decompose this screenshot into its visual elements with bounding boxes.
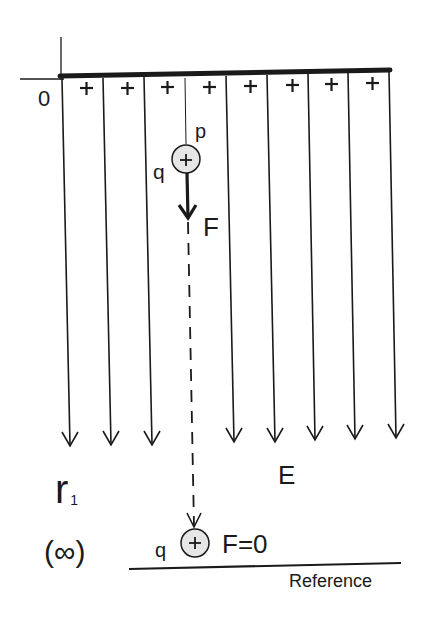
field-e-label: E (278, 462, 295, 488)
test-charge-bottom (181, 529, 209, 557)
charged-plate (60, 70, 390, 76)
force-arrow (179, 173, 196, 218)
origin-label: 0 (38, 88, 50, 110)
reference-label: Reference (289, 572, 372, 590)
field-line-arrow (267, 75, 283, 442)
infinity-label: (∞) (44, 537, 85, 567)
plus-sign-icon (286, 79, 299, 92)
force-zero-label: F=0 (222, 531, 268, 557)
plus-sign-icon (121, 82, 134, 95)
field-lines (62, 72, 404, 446)
distance-r-label: r1 (55, 469, 78, 509)
plus-sign-icon (366, 77, 379, 90)
plate-bar (60, 70, 390, 76)
test-charge-top (172, 145, 200, 173)
distance-r-subscript: 1 (70, 492, 78, 508)
charge-q-top-label: q (153, 161, 165, 182)
plate-charge-signs (80, 77, 379, 95)
plus-sign-icon (161, 81, 174, 94)
distance-r-main: r (55, 467, 68, 511)
reference-line (129, 563, 401, 569)
field-diagram-svg (0, 0, 423, 622)
field-line-arrow (347, 73, 363, 439)
field-line-arrow (62, 79, 78, 446)
plus-sign-icon (80, 82, 93, 95)
plus-sign-icon (325, 78, 338, 91)
field-line-arrow (226, 76, 242, 442)
plus-sign-icon (244, 80, 257, 93)
point-p-label: p (195, 121, 206, 141)
line-to-point-p (185, 78, 186, 144)
axes (20, 37, 64, 80)
field-line-arrow (103, 78, 119, 445)
force-label: F (203, 214, 219, 240)
field-line-arrow (144, 77, 160, 445)
plus-sign-icon (203, 81, 216, 94)
charge-q-bottom-label: q (155, 540, 166, 560)
dashed-path (187, 222, 201, 527)
field-line-arrow (307, 74, 323, 440)
field-line-arrow (388, 72, 404, 438)
diagram-canvas: 0 p q F r1 E (∞) q F=0 Reference (0, 0, 423, 622)
